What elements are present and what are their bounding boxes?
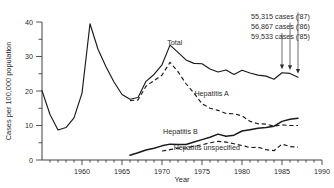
annotation-text-2: 59,533 cases ('85) xyxy=(251,32,310,41)
annotations: 55,315 cases ('87)56,867 cases ('86)59,5… xyxy=(251,12,310,74)
y-tick-label: 30 xyxy=(25,52,33,61)
x-tick-label: 1975 xyxy=(194,167,210,176)
series-label-0: Total xyxy=(167,38,183,47)
series-label-3: Hepatitis unspecified xyxy=(174,143,240,152)
x-axis-tick-labels: 1960196519701975198019851990 xyxy=(74,167,330,176)
y-tick-label: 40 xyxy=(25,18,33,27)
x-tick-label: 1980 xyxy=(234,167,250,176)
x-axis-ticks xyxy=(50,160,322,165)
x-tick-label: 1990 xyxy=(314,167,330,176)
series-label-2: Hepatitis B xyxy=(163,127,198,136)
series-inline-labels: TotalHepatitis AHepatitis BHepatitis uns… xyxy=(163,38,240,151)
x-tick-label: 1965 xyxy=(114,167,130,176)
annotation-text-1: 56,867 cases ('86) xyxy=(251,22,310,31)
y-tick-label: 10 xyxy=(25,121,33,130)
annotation-arrow-1 xyxy=(288,65,292,70)
annotation-arrow-0 xyxy=(296,69,300,74)
x-axis-title: Year xyxy=(175,175,190,184)
x-axis: 1960196519701975198019851990 Year xyxy=(42,160,330,184)
y-axis-ticks xyxy=(36,22,42,160)
y-tick-label: 0 xyxy=(29,156,33,165)
y-axis: 010203040 Cases per 100,000 population xyxy=(4,18,42,165)
x-tick-label: 1970 xyxy=(154,167,170,176)
annotation-arrow-2 xyxy=(280,65,284,70)
series-label-1: Hepatitis A xyxy=(194,89,229,98)
annotation-text-0: 55,315 cases ('87) xyxy=(251,12,310,21)
y-axis-title: Cases per 100,000 population xyxy=(4,42,13,141)
chart-canvas: 010203040 Cases per 100,000 population 1… xyxy=(0,0,334,188)
y-tick-label: 20 xyxy=(25,87,33,96)
y-axis-tick-labels: 010203040 xyxy=(25,18,33,165)
x-tick-label: 1960 xyxy=(74,167,90,176)
x-tick-label: 1985 xyxy=(274,167,290,176)
hepatitis-incidence-chart: 010203040 Cases per 100,000 population 1… xyxy=(0,0,334,188)
